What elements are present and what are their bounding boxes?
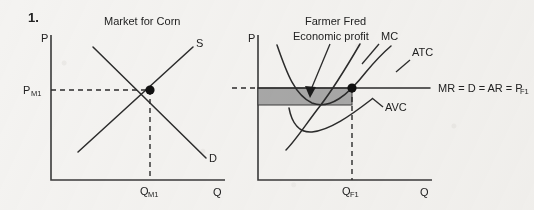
left-equilibrium-point (145, 85, 154, 94)
scanned-worksheet: 1. Market for Corn P Q S D P M1 (0, 0, 534, 210)
economic-profit-leader-line (310, 44, 330, 92)
revenue-line-subscript: F1 (520, 87, 529, 96)
left-quantity-label: Q M1 (140, 185, 158, 199)
left-graph-market-for-corn: Market for Corn P Q S D P M1 Q (23, 15, 225, 199)
left-y-axis-label: P (41, 32, 48, 44)
right-quantity-subscript: F1 (350, 190, 359, 199)
avc-leader-line (372, 98, 383, 107)
supply-curve (78, 47, 193, 152)
average-total-cost-label: ATC (412, 46, 433, 58)
right-quantity-label: Q F1 (342, 185, 359, 199)
left-price-letter: P (23, 84, 30, 96)
supply-curve-label: S (196, 37, 203, 49)
economic-profit-annotation: Economic profit (293, 30, 369, 42)
right-graph-title: Farmer Fred (305, 15, 366, 27)
marginal-cost-label: MC (381, 30, 398, 42)
left-x-axis-label: Q (213, 186, 222, 198)
economic-profit-rectangle (258, 88, 352, 105)
left-graph-title: Market for Corn (104, 15, 180, 27)
demand-curve-label: D (209, 152, 217, 164)
left-price-label: P M1 (23, 84, 41, 98)
revenue-line-text: MR = D = AR = P (438, 82, 523, 94)
right-x-axis-label: Q (420, 186, 429, 198)
left-axes (51, 35, 225, 180)
economics-diagram: 1. Market for Corn P Q S D P M1 (0, 0, 534, 210)
question-number: 1. (28, 10, 39, 25)
right-equilibrium-point (347, 83, 356, 92)
average-variable-cost-label: AVC (385, 101, 407, 113)
left-quantity-subscript: M1 (148, 190, 158, 199)
atc-leader-line (396, 60, 410, 72)
right-graph-farmer-fred: Farmer Fred P Q Economic profit (232, 15, 529, 199)
right-y-axis-label: P (248, 32, 255, 44)
left-price-subscript: M1 (31, 89, 41, 98)
revenue-line-label: MR = D = AR = P F1 (438, 82, 529, 96)
